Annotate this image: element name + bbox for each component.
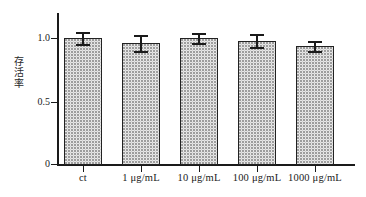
y-tick-mark-1 (51, 38, 58, 39)
y-tick-label-2: 0.5 (22, 97, 50, 107)
error-bar-cap-2-upper (134, 35, 148, 37)
y-axis-line (57, 13, 59, 165)
error-bar-cap-4-lower (250, 47, 264, 49)
error-bar-cap-1-upper (76, 32, 90, 34)
bar-5 (296, 46, 334, 165)
y-tick-label-3: 0 (22, 159, 50, 169)
error-bar-stem-2 (140, 35, 142, 50)
bar-4 (238, 41, 276, 165)
y-tick-label-1: 1.0 (22, 33, 50, 43)
y-axis-title-char-1: 存 (13, 56, 25, 67)
bar-chart: 存 活 率 1.0 0.5 0 ct1 μg/mL10 μg/mL100 μg/… (0, 0, 366, 197)
x-tick-label-5: 1000 μg/mL (270, 172, 360, 184)
y-axis-title-char-2: 活 (13, 67, 25, 78)
y-tick-mark-2 (51, 102, 58, 103)
error-bar-cap-3-upper (192, 33, 206, 35)
bar-3 (180, 38, 218, 165)
error-bar-cap-5-lower (308, 51, 322, 53)
y-tick-mark-3 (51, 164, 58, 165)
y-axis-title: 存 活 率 (13, 56, 25, 89)
y-axis-title-char-3: 率 (13, 78, 25, 89)
error-bar-cap-1-lower (76, 44, 90, 46)
error-bar-cap-4-upper (250, 34, 264, 36)
error-bar-cap-5-upper (308, 41, 322, 43)
error-bar-cap-3-lower (192, 43, 206, 45)
bar-1 (64, 38, 102, 165)
error-bar-cap-2-lower (134, 51, 148, 53)
bar-2 (122, 43, 160, 165)
